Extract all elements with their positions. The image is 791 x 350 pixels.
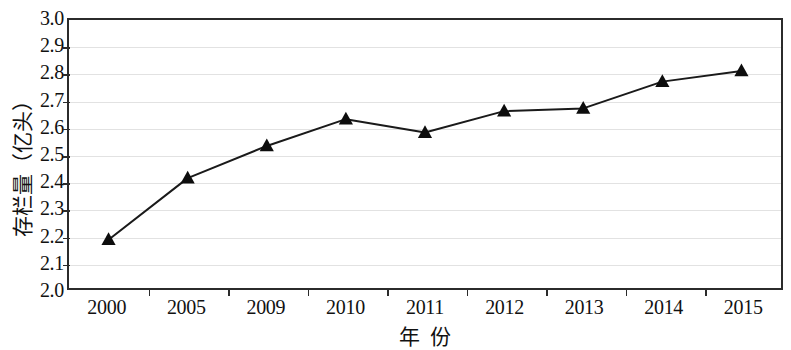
x-axis-tickmark	[546, 288, 548, 296]
y-axis-tickmark	[63, 156, 70, 158]
y-axis-tick-label: 2.8	[16, 62, 64, 82]
y-axis-tick-label: 2.1	[16, 253, 64, 273]
y-axis-tick-label: 2.3	[16, 198, 64, 218]
x-axis-tick-label: 2012	[460, 296, 550, 318]
y-axis-tick-labels: 3.02.92.82.72.62.52.42.32.22.12.0	[16, 18, 64, 290]
plot-area	[67, 18, 783, 290]
x-axis-tickmark	[308, 288, 310, 296]
y-axis-tickmark	[63, 238, 70, 240]
y-axis-tick-label: 2.7	[16, 90, 64, 110]
x-axis-tick-label: 2010	[300, 296, 390, 318]
y-axis-tickmark	[63, 183, 70, 185]
x-axis-tickmark	[149, 288, 151, 296]
y-axis-tick-label: 2.4	[16, 171, 64, 191]
y-axis-tick-label: 2.2	[16, 226, 64, 246]
series-line	[109, 71, 742, 240]
x-axis-title: 年 份	[67, 320, 783, 350]
data-point-marker	[734, 64, 748, 77]
data-series-line	[69, 20, 781, 288]
y-axis-tickmark	[63, 74, 70, 76]
y-axis-tick-label: 2.0	[16, 280, 64, 300]
x-axis-tick-label: 2015	[698, 296, 788, 318]
y-axis-tickmark	[63, 265, 70, 267]
data-point-marker	[339, 112, 353, 125]
data-point-marker	[101, 232, 115, 245]
y-axis-tickmark	[63, 210, 70, 212]
y-axis-tickmark	[63, 102, 70, 104]
x-axis-tickmark	[626, 288, 628, 296]
x-axis-tick-label: 2000	[62, 296, 152, 318]
y-axis-tick-label: 2.5	[16, 144, 64, 164]
y-axis-tick-label: 2.9	[16, 35, 64, 55]
x-axis-tick-labels: 200020052009201020112012201320142015	[67, 296, 783, 322]
x-axis-tickmark	[705, 288, 707, 296]
y-axis-tickmark	[63, 47, 70, 49]
y-axis-tickmark	[63, 129, 70, 131]
x-axis-tick-label: 2011	[380, 296, 470, 318]
x-axis-tick-label: 2014	[619, 296, 709, 318]
y-axis-tick-label: 2.6	[16, 117, 64, 137]
x-axis-tick-label: 2013	[539, 296, 629, 318]
x-axis-tickmark	[228, 288, 230, 296]
y-axis-tick-label: 3.0	[16, 8, 64, 28]
x-axis-tickmark	[467, 288, 469, 296]
x-axis-tickmark	[387, 288, 389, 296]
x-axis-tick-label: 2005	[141, 296, 231, 318]
x-axis-tick-label: 2009	[221, 296, 311, 318]
